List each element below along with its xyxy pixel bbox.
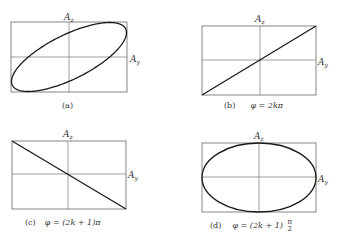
panel-b-ay-label: Ay: [317, 57, 329, 69]
panel-c-az-label: Az: [62, 129, 74, 140]
panel-c-negative-line: [12, 141, 126, 209]
caption-c-label: (c): [25, 218, 36, 227]
caption-b-label: (b): [224, 101, 235, 110]
panel-d: Az Ay: [202, 131, 329, 212]
panel-b-positive-line: [202, 26, 316, 95]
panel-c: Az Ay: [12, 129, 139, 209]
caption-c: (c) φ = (2k + 1)π: [25, 218, 101, 227]
panel-a: Az Ay: [11, 12, 141, 92]
caption-d-fraction: π 2: [287, 219, 292, 233]
panel-c-ay-label: Ay: [127, 170, 139, 182]
panel-a-az-label: Az: [63, 12, 75, 23]
caption-b-formula: φ = 2kπ: [250, 101, 283, 110]
caption-a: (a): [62, 101, 73, 110]
caption-d: (d) φ = (2k + 1) π 2: [210, 219, 292, 233]
caption-d-label: (d): [210, 221, 221, 230]
caption-c-formula: φ = (2k + 1)π: [45, 218, 101, 227]
panel-b: Az Ay: [202, 14, 329, 95]
caption-d-frac-den: 2: [287, 226, 292, 233]
lissajous-figure: Az Ay Az Ay Az Ay Az Ay: [0, 0, 344, 246]
caption-b: (b) φ = 2kπ: [224, 101, 283, 110]
caption-d-formula: φ = (2k + 1): [232, 221, 282, 230]
panel-d-ay-label: Ay: [317, 174, 329, 186]
panel-a-ay-label: Ay: [129, 54, 141, 66]
panel-b-az-label: Az: [254, 14, 266, 25]
caption-a-label: (a): [62, 101, 73, 110]
panel-d-az-label: Az: [253, 131, 265, 142]
